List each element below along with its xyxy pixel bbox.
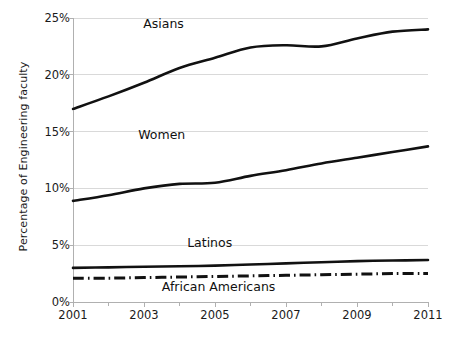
series-line-women (73, 146, 428, 201)
series-line-african-americans (73, 274, 428, 279)
series-label-latinos: Latinos (187, 235, 232, 250)
x-tick-label: 2011 (403, 308, 453, 322)
line-chart: Percentage of Engineering faculty 0%5%10… (0, 0, 462, 346)
x-tick-label: 2005 (190, 308, 240, 322)
x-axis-tick-labels: 200120032005200720092011 (0, 308, 462, 332)
x-tick-label: 2007 (261, 308, 311, 322)
series-label-asians: Asians (143, 16, 184, 31)
series-line-latinos (73, 260, 428, 268)
series-line-asians (73, 29, 428, 109)
series-label-women: Women (138, 127, 185, 142)
x-tick-label: 2009 (332, 308, 382, 322)
plot-area (0, 0, 462, 346)
series-label-african-americans: African Americans (162, 279, 276, 294)
x-tick-label: 2001 (48, 308, 98, 322)
x-tick-label: 2003 (119, 308, 169, 322)
